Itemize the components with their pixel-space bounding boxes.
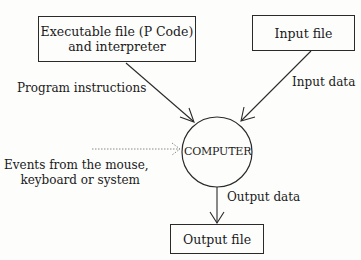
input-file-label: Input file	[275, 26, 333, 41]
executable-file-node: Executable file (P Code) and interpreter	[38, 16, 196, 62]
output-data-label: Output data	[227, 190, 300, 205]
input-file-node: Input file	[252, 15, 355, 51]
events-line2: keyboard or system	[4, 173, 140, 188]
output-file-label: Output file	[183, 232, 251, 247]
executable-line1: Executable file (P Code)	[41, 24, 194, 39]
input-data-label: Input data	[292, 75, 355, 90]
program-instructions-label: Program instructions	[17, 81, 146, 96]
events-label: Events from the mouse, keyboard or syste…	[4, 158, 140, 188]
diagram-canvas: Executable file (P Code) and interpreter…	[0, 0, 361, 260]
output-file-node: Output file	[170, 224, 264, 254]
executable-line2: and interpreter	[41, 39, 194, 54]
events-line1: Events from the mouse,	[4, 158, 140, 173]
computer-node-label: COMPUTER	[184, 145, 250, 158]
